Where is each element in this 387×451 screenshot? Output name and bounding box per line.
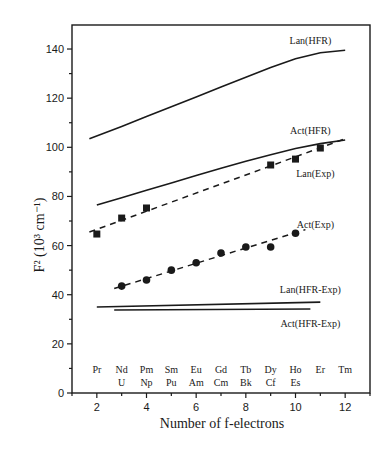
actinide-label: Cm [214, 377, 229, 388]
data-point-square [93, 231, 100, 238]
lanthanide-label: Eu [191, 364, 202, 375]
lanthanide-label: Er [316, 364, 326, 375]
series-label-lan-hfr-exp: Lan(HFR-Exp) [280, 284, 341, 296]
x-tick-label: 6 [193, 401, 199, 413]
y-axis-title: F² (10³ cm⁻¹) [32, 197, 48, 272]
y-tick-label: 40 [52, 289, 64, 301]
data-point-circle [143, 276, 151, 284]
lanthanide-label: Tb [240, 364, 251, 375]
chart: 020406080100120140 24681012 PrNdPmSmEuGd… [0, 0, 387, 451]
data-point-square [292, 156, 299, 163]
y-tick-label: 0 [58, 387, 64, 399]
series-label-act-exp: Act(Exp) [297, 219, 334, 231]
lanthanide-label: Pm [140, 364, 154, 375]
series-line-act-hfr-exp [114, 309, 310, 310]
actinide-label: U [118, 377, 126, 388]
x-tick-label: 10 [289, 401, 301, 413]
data-point-square [118, 215, 125, 222]
x-tick-label: 4 [143, 401, 149, 413]
actinide-label: Am [189, 377, 204, 388]
series-labels: Lan(HFR)Act(HFR)Lan(Exp)Act(Exp)Lan(HFR-… [280, 35, 341, 330]
data-point-circle [242, 243, 250, 251]
actinide-label: Cf [266, 377, 277, 388]
lanthanide-label: Ho [289, 364, 301, 375]
series-group [89, 50, 345, 310]
series-label-act-hfr-exp: Act(HFR-Exp) [280, 318, 340, 330]
lanthanide-label: Dy [265, 364, 277, 375]
data-point-circle [118, 282, 126, 290]
plot-frame [72, 25, 370, 393]
y-tick-label: 20 [52, 338, 64, 350]
series-label-lan-exp: Lan(Exp) [296, 168, 334, 180]
lanthanide-label: Sm [165, 364, 179, 375]
data-point-circle [292, 229, 300, 237]
y-axis: 020406080100120140 [46, 43, 72, 399]
lanthanide-label: Tm [338, 364, 352, 375]
lanthanide-label: Nd [116, 364, 128, 375]
element-labels: PrNdPmSmEuGdTbDyHoErTmUNpPuAmCmBkCfEs [92, 364, 352, 388]
actinide-label: Pu [166, 377, 177, 388]
data-point-square [143, 204, 150, 211]
x-tick-label: 12 [339, 401, 351, 413]
x-tick-label: 8 [243, 401, 249, 413]
plot-border [72, 25, 370, 393]
y-tick-label: 60 [52, 240, 64, 252]
lanthanide-label: Gd [215, 364, 227, 375]
lanthanide-label: Pr [92, 364, 102, 375]
series-label-lan-hfr: Lan(HFR) [290, 35, 332, 47]
data-point-circle [267, 243, 275, 251]
y-tick-label: 100 [46, 141, 64, 153]
y-tick-label: 80 [52, 190, 64, 202]
y-tick-label: 120 [46, 92, 64, 104]
x-axis-title: Number of f-electrons [160, 416, 284, 431]
x-tick-label: 2 [94, 401, 100, 413]
series-label-act-hfr: Act(HFR) [290, 125, 331, 137]
y-tick-label: 140 [46, 43, 64, 55]
data-point-circle [192, 259, 200, 267]
fit-line-lan-exp [89, 139, 345, 232]
x-axis: 24681012 [72, 393, 370, 413]
data-point-circle [217, 249, 225, 257]
series-line-lan-hfr-exp [97, 302, 321, 307]
actinide-label: Es [291, 377, 301, 388]
actinide-label: Np [140, 377, 152, 388]
actinide-label: Bk [240, 377, 252, 388]
data-point-square [267, 161, 274, 168]
data-point-square [317, 145, 324, 152]
data-point-circle [168, 266, 176, 274]
